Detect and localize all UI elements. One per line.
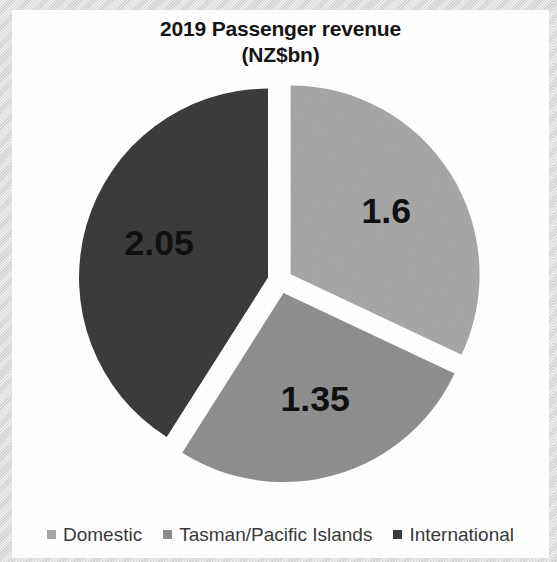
- chart-frame: 2019 Passenger revenue (NZ$bn) 1.61.352.…: [0, 0, 557, 562]
- pie-slice-label: 1.35: [280, 379, 349, 419]
- legend-label-tasman-pacific-islands: Tasman/Pacific Islands: [179, 525, 372, 544]
- pie-slice-label: 2.05: [124, 223, 193, 263]
- legend-swatch-tasman-pacific-islands: [163, 530, 172, 539]
- legend-item-international[interactable]: International: [393, 525, 514, 544]
- chart-title-line-1: 2019 Passenger revenue: [12, 16, 549, 42]
- legend-swatch-international: [393, 530, 402, 539]
- legend-label-domestic: Domestic: [63, 525, 142, 544]
- legend-swatch-domestic: [47, 530, 56, 539]
- chart-title: 2019 Passenger revenue (NZ$bn): [12, 16, 549, 67]
- pie-slice-label: 1.6: [362, 191, 412, 231]
- legend-item-domestic[interactable]: Domestic: [47, 525, 142, 544]
- pie-slice-group: [79, 85, 480, 482]
- chart-plate: 2019 Passenger revenue (NZ$bn) 1.61.352.…: [12, 10, 549, 558]
- chart-title-line-2: (NZ$bn): [12, 42, 549, 68]
- pie-chart: 1.61.352.05: [12, 68, 549, 498]
- chart-legend: Domestic Tasman/Pacific Islands Internat…: [12, 525, 549, 544]
- pie-svg: 1.61.352.05: [12, 68, 549, 498]
- legend-item-tasman-pacific-islands[interactable]: Tasman/Pacific Islands: [163, 525, 372, 544]
- legend-label-international: International: [409, 525, 514, 544]
